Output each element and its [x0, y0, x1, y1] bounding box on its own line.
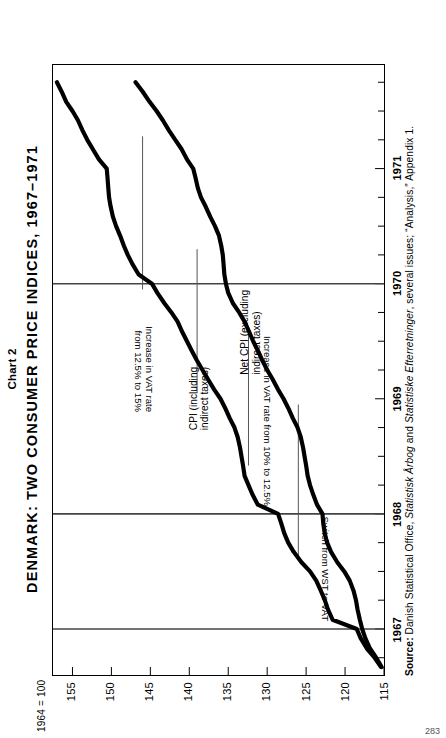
source-text-c: , several issues; “Analysis,” Appendix 1… [404, 126, 415, 310]
series-label-net-cpi-line1: Net CPI (excluding [239, 290, 251, 375]
annotation-vat-10-to-125: Increase in VAT rate from 10% to 12.5% [262, 336, 273, 506]
y-axis-ticks [72, 667, 384, 675]
page-number: 283 [425, 726, 440, 736]
x-tick-label: 1971 [391, 138, 403, 198]
annotation-vat-125-to-15: Increase in VAT rate from 12.5% to 15% [132, 326, 155, 412]
series-label-cpi-line2: indirect taxes) [199, 367, 211, 430]
chart-title: DENMARK: TWO CONSUMER PRICE INDICES, 196… [24, 0, 40, 738]
y-tick-label: 125 [300, 682, 312, 726]
annotation-vat-125-to-15-line2: from 12.5% to 15% [132, 326, 143, 412]
y-tick-label: 140 [182, 682, 194, 726]
x-tick-label: 1970 [391, 253, 403, 313]
source-text-a: Danish Statistical Office, [404, 519, 415, 635]
chart-number: Chart 2 [6, 0, 18, 738]
chart-canvas [53, 65, 384, 675]
y-tick-label: 115 [378, 682, 390, 726]
y-tick-label: 130 [260, 682, 272, 726]
source-label: Source: [404, 637, 415, 676]
source-text-b: and [404, 423, 415, 446]
source-italic-b: Statistiske Efterretninger [404, 310, 415, 424]
series-label-cpi: CPI (including indirect taxes) [188, 367, 212, 430]
y-tick-label: 155 [65, 682, 77, 726]
series-label-net-cpi: Net CPI (excluding indirect taxes) [239, 290, 263, 375]
x-tick-label: 1969 [391, 369, 403, 429]
y-tick-label: 135 [221, 682, 233, 726]
y-tick-label: 120 [339, 682, 351, 726]
x-axis-ticks [375, 82, 384, 657]
series-label-cpi-line1: CPI (including [188, 367, 200, 430]
source-note: Source: Danish Statistical Office, Stati… [404, 16, 415, 676]
annotation-wst-to-vat: Switch from WST to VAT [320, 517, 331, 621]
source-italic-a: Statistisk Årbog [404, 446, 415, 518]
x-tick-label: 1968 [391, 484, 403, 544]
figure-page: Chart 2 DENMARK: TWO CONSUMER PRICE INDI… [0, 0, 446, 738]
rotated-figure-container: Chart 2 DENMARK: TWO CONSUMER PRICE INDI… [0, 0, 446, 738]
y-tick-label: 145 [143, 682, 155, 726]
annotation-leader-lines [143, 136, 299, 557]
figure: Chart 2 DENMARK: TWO CONSUMER PRICE INDI… [0, 0, 446, 738]
x-tick-label: 1967 [391, 600, 403, 660]
annotation-vat-125-to-15-line1: Increase in VAT rate [144, 326, 155, 412]
plot-area: Switch from WST to VAT Increase in VAT r… [52, 64, 385, 676]
y-axis-base-note: 1964 = 100 [36, 680, 47, 732]
series-label-net-cpi-line2: indirect taxes) [251, 290, 263, 375]
event-lines [53, 284, 384, 629]
y-tick-label: 150 [104, 682, 116, 726]
data-lines [57, 82, 382, 667]
